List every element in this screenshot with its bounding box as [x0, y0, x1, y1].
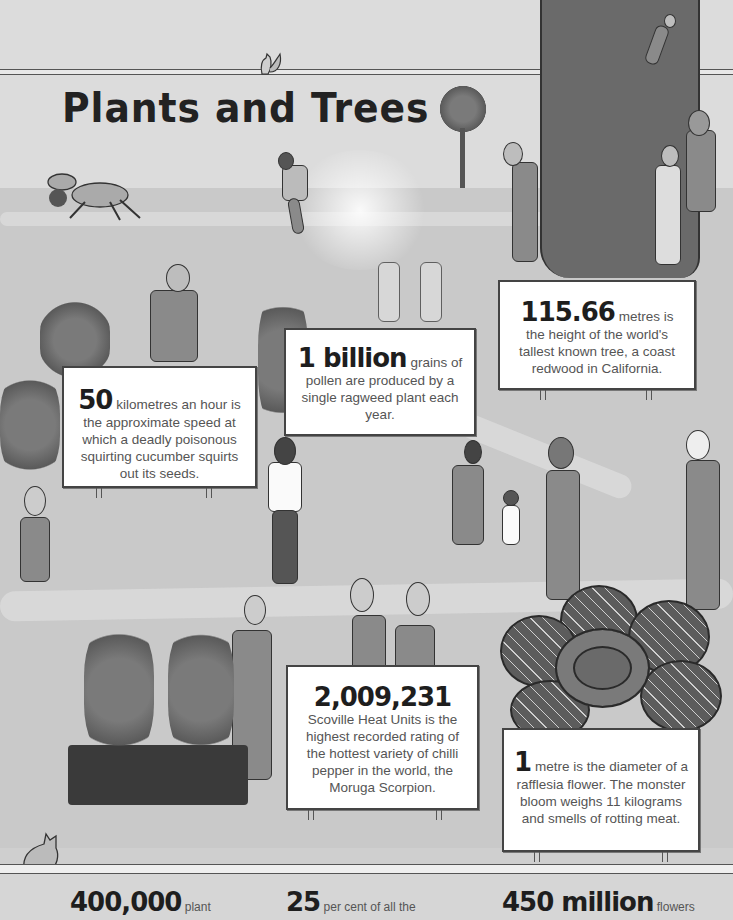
- boy-head: [274, 437, 296, 465]
- sign-post: [534, 852, 540, 862]
- startled-man: [150, 290, 198, 362]
- small-tree-icon: [440, 86, 486, 132]
- fact-card-tree-height: 115.66 metres is the height of the world…: [498, 280, 696, 390]
- person-covering-face: [546, 470, 580, 600]
- bottom-divider-rule: [0, 864, 733, 874]
- goat-icon: [40, 160, 150, 225]
- sign-post: [662, 852, 668, 862]
- person-head: [688, 110, 710, 136]
- bean-teepee-icon: [84, 620, 154, 760]
- small-tree-trunk: [460, 128, 465, 188]
- runner-head: [278, 152, 294, 170]
- sign-post: [646, 390, 652, 400]
- climber-head: [664, 14, 676, 28]
- boy-legs: [272, 510, 298, 584]
- person-hugging-tree: [655, 165, 681, 265]
- fact-text: Scoville Heat Units is the highest recor…: [306, 712, 459, 795]
- fire-breathing-head: [244, 595, 266, 625]
- bean-teepee-icon: [168, 620, 234, 760]
- squirrel-icon: [254, 50, 286, 76]
- fact-number: 50: [78, 385, 112, 414]
- mother-head: [464, 440, 482, 464]
- person-head: [503, 142, 523, 166]
- sign-post: [436, 810, 442, 820]
- rafflesia-petal: [640, 660, 722, 732]
- person-head: [686, 430, 710, 460]
- startled-man-head: [166, 264, 190, 292]
- sign-post: [206, 488, 212, 498]
- bottom-stat-plant-species: 400,000 plant: [70, 888, 211, 916]
- sign-post: [96, 488, 102, 498]
- stat-number: 25: [286, 887, 320, 916]
- garden-bed: [68, 745, 248, 805]
- fact-number: 1 billion: [298, 343, 407, 372]
- baby-head: [503, 490, 519, 506]
- stat-text: per cent of all the: [324, 900, 416, 914]
- person-looking-up: [512, 162, 538, 262]
- laughing-man-head: [406, 582, 430, 616]
- running-man-icon: [282, 165, 308, 201]
- fact-card-pollen: 1 billion grains of pollen are produced …: [284, 328, 476, 436]
- stat-text: flowers: [657, 900, 695, 914]
- rafflesia-center: [555, 628, 650, 708]
- baby-figure: [502, 505, 520, 545]
- fact-number: 2,009,231: [314, 682, 451, 711]
- stat-text: plant: [185, 900, 211, 914]
- bottom-stat-flowers: 450 million flowers: [502, 888, 695, 916]
- laughing-man-head: [350, 578, 374, 612]
- fact-number: 1: [514, 747, 531, 776]
- pollen-person: [378, 262, 400, 322]
- infographic-page: Plants and Trees: [0, 0, 733, 920]
- pollen-glow: [290, 150, 430, 270]
- sign-post: [308, 810, 314, 820]
- person-head: [548, 437, 574, 469]
- fact-number: 115.66: [521, 297, 615, 326]
- bottom-stat-per-cent: 25 per cent of all the: [286, 888, 416, 916]
- cucumber-plant-icon: [0, 370, 60, 480]
- person-covering-face: [686, 460, 720, 610]
- fact-card-chilli: 2,009,231 Scoville Heat Units is the hig…: [286, 665, 479, 810]
- woman-observer: [686, 130, 716, 212]
- pollen-person: [420, 262, 442, 322]
- page-title: Plants and Trees: [62, 84, 429, 132]
- mother-figure: [452, 465, 484, 545]
- fact-card-rafflesia: 1 metre is the diameter of a rafflesia f…: [502, 728, 700, 852]
- woman-from-behind: [20, 517, 50, 582]
- fact-card-cucumber: 50 kilometres an hour is the approximate…: [62, 366, 257, 488]
- fact-text: metre is the diameter of a rafflesia flo…: [516, 759, 688, 826]
- sign-post: [540, 390, 546, 400]
- person-head: [661, 145, 679, 167]
- stat-number: 450 million: [502, 887, 653, 916]
- woman-head: [24, 486, 46, 516]
- boy-white-shirt: [268, 462, 302, 512]
- stat-number: 400,000: [70, 887, 181, 916]
